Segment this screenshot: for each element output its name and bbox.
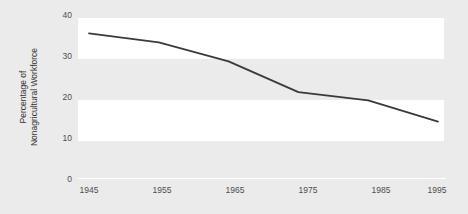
series-line-percentage-of-nonagricultural-workforce bbox=[89, 33, 438, 121]
y-tick-label-20: 20 bbox=[50, 93, 72, 102]
y-tick-label-30: 30 bbox=[50, 52, 72, 61]
y-tick-label-10: 10 bbox=[50, 134, 72, 143]
x-tick-label-1955: 1955 bbox=[142, 186, 182, 195]
y-axis-title-line-1: Percentage of bbox=[18, 47, 29, 145]
x-tick-label-1945: 1945 bbox=[69, 186, 109, 195]
y-axis-ticks: 40 30 20 10 0 bbox=[50, 0, 72, 214]
x-tick-label-1975: 1975 bbox=[288, 186, 328, 195]
x-axis-line bbox=[78, 178, 446, 179]
x-tick-label-1965: 1965 bbox=[215, 186, 255, 195]
y-axis-title-line-2: Nonagricultural Workforce bbox=[29, 47, 40, 145]
y-tick-label-0: 0 bbox=[50, 175, 72, 184]
series-line-layer bbox=[78, 14, 444, 179]
plot-area bbox=[78, 14, 444, 179]
x-tick-label-1985: 1985 bbox=[361, 186, 401, 195]
y-tick-label-40: 40 bbox=[50, 11, 72, 20]
y-axis-title: Percentage of Nonagricultural Workforce bbox=[12, 14, 46, 179]
x-tick-label-1995: 1995 bbox=[417, 186, 457, 195]
x-axis-ticks: 1945 1955 1965 1975 1985 1995 bbox=[78, 186, 444, 202]
chart-figure: 40 30 20 10 0 1945 1955 1965 1975 1985 1… bbox=[0, 0, 468, 214]
